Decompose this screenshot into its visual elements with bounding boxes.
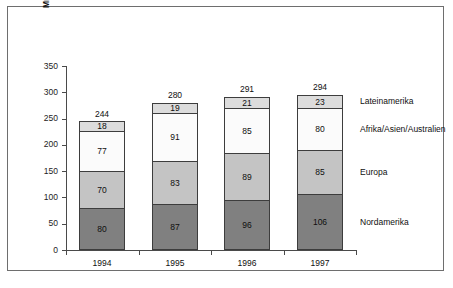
bar-segment: 89 — [224, 153, 270, 200]
y-axis-tick — [62, 197, 67, 198]
bar-segment-value: 80 — [298, 125, 342, 134]
bar-segment-value: 89 — [225, 172, 269, 181]
bar-stack: 19918387 — [152, 103, 198, 250]
x-axis-category-label: 1995 — [144, 258, 206, 268]
y-axis-tick-label: 200 — [28, 140, 58, 149]
y-axis-tick-label: 0 — [28, 246, 58, 255]
y-axis-tick — [62, 171, 67, 172]
y-axis-tick — [62, 66, 67, 67]
y-axis-tick-label-text: 300 — [30, 88, 58, 97]
bar-segment-value: 83 — [153, 178, 197, 187]
y-axis-tick-label-text: 50 — [30, 219, 58, 228]
legend-item-lateinamerika: Lateinamerika — [360, 96, 413, 106]
y-axis-tick-label: 50 — [28, 219, 58, 228]
bar-group-1996: 21858996 — [224, 0, 270, 250]
y-axis-tick — [62, 145, 67, 146]
bar-total-label: 280 — [146, 91, 204, 100]
bar-segment: 96 — [224, 200, 270, 250]
bar-segment-value: 91 — [153, 133, 197, 142]
x-axis-tick — [211, 250, 212, 255]
y-axis-tick — [62, 119, 67, 120]
y-axis-tick-label-text: 200 — [30, 140, 58, 149]
bar-stack: 21858996 — [224, 97, 270, 250]
y-axis-tick-label: 350 — [28, 62, 58, 71]
y-axis-tick-label: 100 — [28, 193, 58, 202]
x-axis-tick — [284, 250, 285, 255]
bar-group-1994: 18777080 — [79, 0, 125, 250]
y-axis-tick-label-text: 0 — [30, 246, 58, 255]
y-axis-tick-label-text: 250 — [30, 114, 58, 123]
bar-segment-value: 85 — [298, 168, 342, 177]
bar-segment-value: 21 — [225, 99, 269, 108]
y-axis-tick — [62, 92, 67, 93]
y-axis-tick-label-text: 150 — [30, 167, 58, 176]
bar-total-label: 244 — [73, 110, 131, 119]
x-axis-tick — [66, 250, 67, 255]
bar-total-label: 291 — [218, 85, 276, 94]
bar-segment: 23 — [297, 95, 343, 107]
bar-total-label: 294 — [291, 83, 349, 92]
bar-group-1995: 19918387 — [152, 0, 198, 250]
bar-group-1997: 238085106 — [297, 0, 343, 250]
bar-segment-value: 85 — [225, 126, 269, 135]
y-axis-tick — [62, 224, 67, 225]
bar-segment: 106 — [297, 194, 343, 250]
bar-segment: 83 — [152, 161, 198, 205]
bar-segment-value: 70 — [80, 186, 124, 195]
legend-item-europa: Europa — [360, 167, 387, 177]
bar-segment: 80 — [79, 208, 125, 250]
y-axis-tick-label: 300 — [28, 88, 58, 97]
x-axis-category-label: 1996 — [216, 258, 278, 268]
y-axis-tick-label-text: 100 — [30, 193, 58, 202]
bar-segment: 91 — [152, 113, 198, 161]
x-axis-tick — [356, 250, 357, 255]
y-axis-tick-label-text: 350 — [30, 62, 58, 71]
bar-segment: 70 — [79, 171, 125, 208]
legend-item-afrika-asien-australien: Afrika/Asien/Australien — [360, 124, 446, 134]
legend-item-nordamerika: Nordamerika — [360, 217, 409, 227]
bar-segment-value: 19 — [153, 104, 197, 113]
x-axis-category-label: 1997 — [289, 258, 351, 268]
bar-segment-value: 87 — [153, 223, 197, 232]
bar-segment: 19 — [152, 103, 198, 113]
stacked-bar-chart-figure: Mrd US$ 050100150200250300350 1877708024… — [0, 0, 453, 288]
bar-segment: 85 — [297, 150, 343, 195]
bar-segment: 18 — [79, 121, 125, 130]
x-axis-tick — [139, 250, 140, 255]
y-axis-tick-label: 150 — [28, 167, 58, 176]
bar-segment-value: 18 — [80, 122, 124, 131]
y-axis-tick-label: 250 — [28, 114, 58, 123]
x-axis-category-label: 1994 — [71, 258, 133, 268]
bar-segment: 85 — [224, 108, 270, 153]
bar-segment-value: 80 — [80, 224, 124, 233]
y-axis-title: Mrd US$ — [41, 0, 53, 8]
bar-stack: 18777080 — [79, 121, 125, 250]
bar-stack: 238085106 — [297, 95, 343, 250]
bar-segment-value: 23 — [298, 98, 342, 107]
bar-segment-value: 77 — [80, 147, 124, 156]
bar-segment: 87 — [152, 204, 198, 250]
bar-segment: 77 — [79, 131, 125, 171]
bar-segment-value: 106 — [298, 218, 342, 227]
bar-segment: 80 — [297, 108, 343, 150]
bar-segment-value: 96 — [225, 220, 269, 229]
bar-segment: 21 — [224, 97, 270, 108]
